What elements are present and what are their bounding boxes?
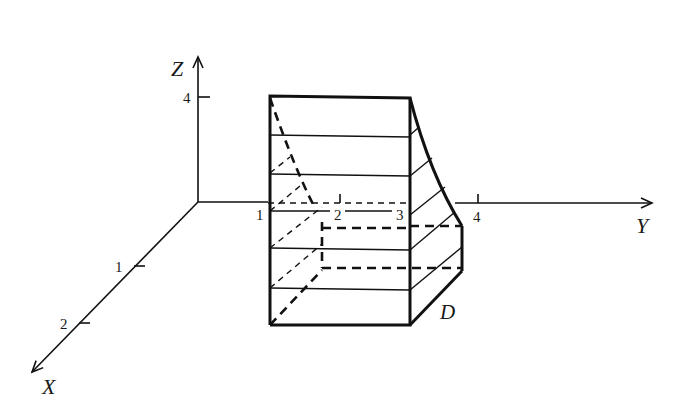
z-tick-label-4: 4 — [183, 90, 191, 106]
y-tick-label-2: 2 — [334, 207, 342, 223]
y-axis-label: Y — [636, 213, 651, 238]
z-axis-label: Z — [171, 56, 184, 81]
y-tick-label-4: 4 — [473, 209, 481, 225]
solid-region-diagram: Z 4 1 2 3 4 Y 1 2 X — [0, 0, 681, 407]
x-tick-label-1: 1 — [115, 259, 123, 275]
x-axis: 1 2 X — [32, 202, 198, 399]
x-axis-label: X — [41, 374, 57, 399]
y-tick-label-3: 3 — [396, 207, 404, 223]
solid-body: D — [270, 96, 462, 325]
y-tick-label-1: 1 — [256, 207, 264, 223]
region-label-d: D — [439, 300, 455, 324]
z-axis: Z 4 — [171, 56, 210, 202]
x-tick-label-2: 2 — [60, 316, 68, 332]
y-axis: 1 2 3 4 Y — [198, 194, 652, 238]
